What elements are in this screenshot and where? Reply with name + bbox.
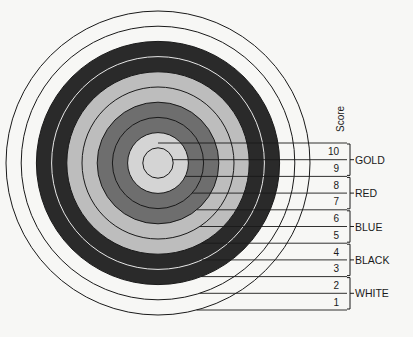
zone-bracket-red <box>347 177 354 208</box>
score-label-10: 10 <box>328 146 340 157</box>
zone-bracket-black <box>347 244 354 275</box>
score-labels: 10987654321 <box>328 146 340 307</box>
score-label-3: 3 <box>333 263 339 274</box>
score-label-8: 8 <box>333 180 339 191</box>
zone-label-gold: GOLD <box>355 154 385 166</box>
score-label-4: 4 <box>333 247 339 258</box>
score-label-9: 9 <box>333 163 339 174</box>
zone-labels: GOLDREDBLUEBLACKWHITE <box>347 144 389 309</box>
score-label-6: 6 <box>333 213 339 224</box>
ring-score-10 <box>143 148 173 178</box>
target-rings <box>6 11 310 315</box>
score-label-7: 7 <box>333 196 339 207</box>
zone-label-black: BLACK <box>355 254 389 266</box>
archery-target-diagram: Score 10987654321 GOLDREDBLUEBLACKWHITE <box>0 0 413 337</box>
score-header: Score <box>335 105 346 132</box>
score-label-2: 2 <box>333 280 339 291</box>
score-label-1: 1 <box>333 297 339 308</box>
zone-label-red: RED <box>355 187 378 199</box>
zone-bracket-gold <box>347 144 354 175</box>
zone-bracket-blue <box>347 211 354 242</box>
score-label-5: 5 <box>333 230 339 241</box>
zone-label-white: WHITE <box>355 287 389 299</box>
zone-bracket-white <box>347 278 354 309</box>
zone-label-blue: BLUE <box>355 221 382 233</box>
